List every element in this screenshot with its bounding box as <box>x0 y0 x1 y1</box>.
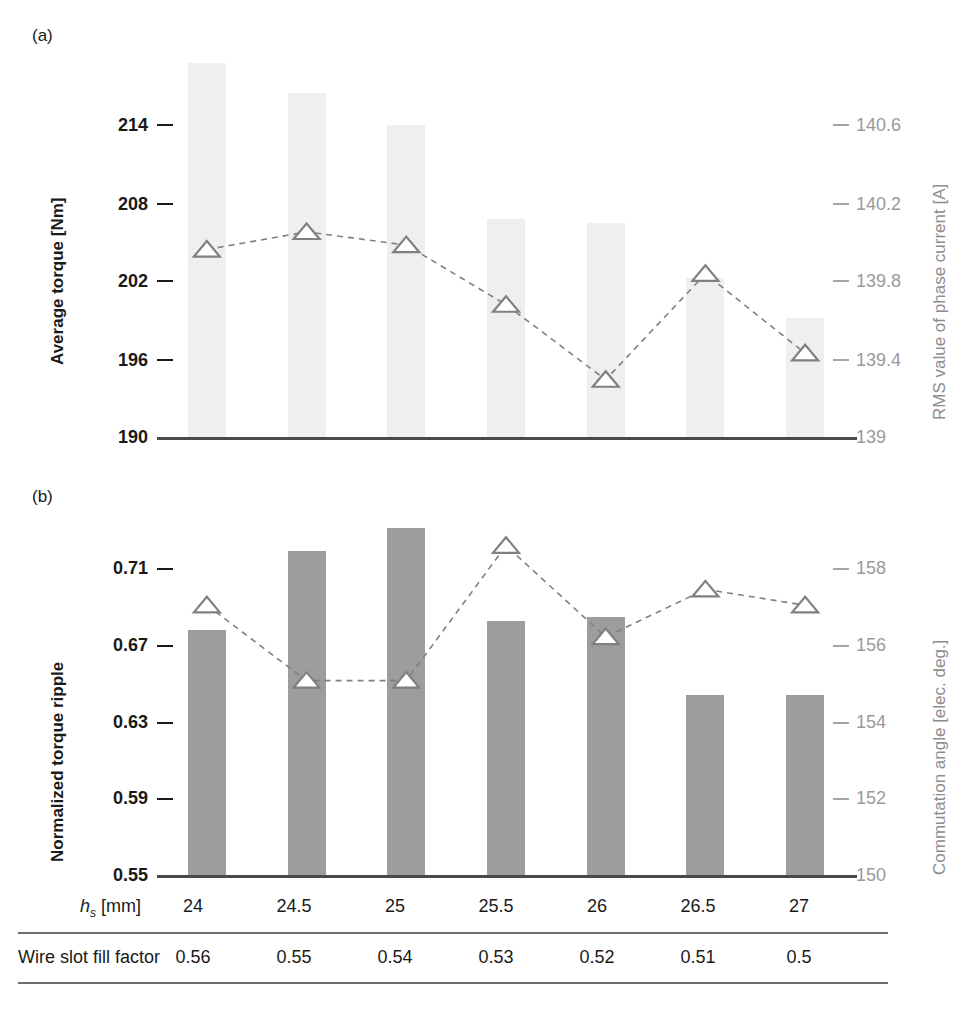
panel-b-letter: (b) <box>32 487 53 507</box>
panel-a-left-tick-1: 208 <box>118 194 148 214</box>
table-row-label-hs: hs [mm] <box>18 896 141 920</box>
panel-a-right-tick-2: 139.8 <box>856 271 901 291</box>
panel-b: (b) Normalized torque ripple Commutation… <box>0 470 962 890</box>
panel-a-plot-area <box>157 40 855 437</box>
panel-a-left-tick-4: 190 <box>118 427 148 447</box>
panel-b-bar-27 <box>786 695 824 875</box>
panel-b-bar-24.5 <box>288 551 326 875</box>
table-row2-cell-3: 0.53 <box>451 947 541 968</box>
table-row1-cell-2: 25 <box>350 896 440 917</box>
table-row2-cell-4: 0.52 <box>552 947 642 968</box>
table-row1-cell-4: 26 <box>552 896 642 917</box>
panel-b-bar-26 <box>587 617 625 875</box>
panel-a-bar-24.5 <box>288 93 326 437</box>
figure-root: (a) Average torque [Nm] RMS value of pha… <box>0 0 962 1014</box>
panel-b-bar-25.5 <box>487 621 525 876</box>
table-row1-cell-6: 27 <box>754 896 844 917</box>
panel-a-left-tick-0: 214 <box>118 115 148 135</box>
panel-a-bar-26.5 <box>686 278 724 437</box>
panel-b-left-tick-2: 0.63 <box>113 712 148 732</box>
panel-b-right-tick-0: 158 <box>856 558 886 578</box>
panel-a-left-axis-title: Average torque [Nm] <box>48 197 68 365</box>
panel-b-left-tick-1: 0.67 <box>113 635 148 655</box>
panel-b-baseline <box>157 875 857 878</box>
panel-b-left-tick-4: 0.55 <box>113 865 148 885</box>
table-row1-cell-1: 24.5 <box>249 896 339 917</box>
panel-b-bar-26.5 <box>686 695 724 875</box>
hs-symbol: h <box>80 896 90 916</box>
panel-a-bar-26 <box>587 223 625 437</box>
table-row1-cell-3: 25.5 <box>451 896 541 917</box>
parameter-table: hs [mm] 24 24.5 25 25.5 26 26.5 27 Wire … <box>18 890 888 1000</box>
panel-b-left-tick-3: 0.59 <box>113 788 148 808</box>
marker-26.5 <box>692 581 718 597</box>
panel-b-right-tick-1: 156 <box>856 635 886 655</box>
panel-a-letter: (a) <box>32 26 53 46</box>
marker-27 <box>792 597 818 613</box>
panel-a-left-tick-2: 202 <box>118 271 148 291</box>
panel-a-right-tick-0: 140.6 <box>856 115 901 135</box>
table-row1-cell-0: 24 <box>148 896 238 917</box>
panel-b-bar-25 <box>387 528 425 875</box>
marker-25.5 <box>493 537 519 553</box>
panel-a-right-tick-1: 140.2 <box>856 194 901 214</box>
panel-a-bar-27 <box>786 318 824 437</box>
table-row2-cell-0: 0.56 <box>148 947 238 968</box>
table-row1-cell-5: 26.5 <box>653 896 743 917</box>
panel-a: (a) Average torque [Nm] RMS value of pha… <box>0 0 962 470</box>
table-rule-top <box>18 932 888 934</box>
marker-24 <box>194 597 220 613</box>
panel-a-baseline <box>157 437 857 440</box>
panel-a-bar-24 <box>188 63 226 438</box>
panel-a-right-axis-title: RMS value of phase current [A] <box>930 184 950 420</box>
panel-b-left-axis-title: Normalized torque ripple <box>48 662 68 862</box>
panel-b-right-tick-4: 150 <box>856 865 886 885</box>
table-row2-cell-2: 0.54 <box>350 947 440 968</box>
panel-b-plot-area <box>157 510 855 875</box>
table-row-label-fill-factor: Wire slot fill factor <box>18 947 141 968</box>
panel-a-bar-25 <box>387 125 425 437</box>
table-row2-cell-1: 0.55 <box>249 947 339 968</box>
table-rule-bottom <box>18 982 888 984</box>
hs-unit: [mm] <box>96 896 141 916</box>
panel-a-left-tick-3: 196 <box>118 350 148 370</box>
panel-b-bar-24 <box>188 630 226 875</box>
table-row2-cell-6: 0.5 <box>754 947 844 968</box>
panel-a-bar-25.5 <box>487 219 525 437</box>
panel-b-right-tick-2: 154 <box>856 712 886 732</box>
panel-b-left-tick-0: 0.71 <box>113 558 148 578</box>
panel-a-right-tick-3: 139.4 <box>856 350 901 370</box>
panel-a-right-tick-4: 139 <box>856 427 886 447</box>
table-row2-cell-5: 0.51 <box>653 947 743 968</box>
panel-b-right-tick-3: 152 <box>856 788 886 808</box>
panel-b-right-axis-title: Commutation angle [elec. deg.] <box>930 640 950 875</box>
